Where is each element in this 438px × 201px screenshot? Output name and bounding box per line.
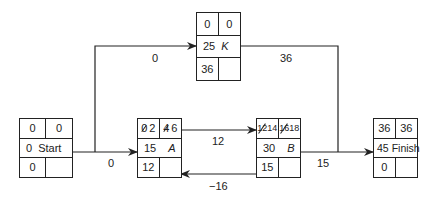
a-ef-new: 6 bbox=[171, 122, 177, 134]
a-slack: 12 bbox=[138, 158, 160, 177]
k-slack: 36 bbox=[197, 58, 219, 80]
edge-label-start-a: 0 bbox=[108, 157, 114, 169]
start-name: Start bbox=[38, 142, 61, 154]
finish-name: Finish bbox=[392, 142, 420, 154]
a-ef: 46 bbox=[160, 119, 182, 138]
b-ef-new: 18 bbox=[289, 123, 299, 133]
start-empty bbox=[46, 158, 72, 177]
node-k: 00 25K 36 bbox=[196, 12, 241, 81]
start-duration: 0 bbox=[26, 142, 32, 154]
b-empty bbox=[279, 158, 301, 177]
edge-label-b-finish: 15 bbox=[317, 157, 329, 169]
finish-slack: 0 bbox=[374, 158, 396, 177]
start-slack: 0 bbox=[20, 158, 46, 177]
node-start: 00 0Start 0 bbox=[19, 118, 73, 178]
finish-es: 36 bbox=[374, 119, 396, 138]
k-es: 0 bbox=[197, 13, 219, 35]
finish-duration: 45 bbox=[377, 142, 389, 154]
a-es-new: 2 bbox=[149, 122, 155, 134]
a-es-old: 0 bbox=[141, 122, 147, 134]
b-ef: 1618 bbox=[279, 119, 301, 138]
a-duration: 15 bbox=[144, 142, 156, 154]
finish-empty bbox=[396, 158, 418, 177]
b-name: B bbox=[287, 142, 294, 154]
edge-label-b-a: −16 bbox=[209, 180, 228, 192]
a-name: A bbox=[168, 142, 175, 154]
b-ef-old: 16 bbox=[279, 123, 289, 133]
start-ef: 0 bbox=[46, 119, 72, 138]
b-duration: 30 bbox=[263, 142, 275, 154]
b-es-new: 14 bbox=[267, 123, 277, 133]
b-es-old: 12 bbox=[257, 123, 267, 133]
edge-label-k-finish: 36 bbox=[280, 52, 292, 64]
k-empty bbox=[219, 58, 241, 80]
k-name: K bbox=[221, 40, 228, 52]
start-es: 0 bbox=[20, 119, 46, 138]
a-es: 02 bbox=[138, 119, 160, 138]
edge-label-a-b: 12 bbox=[212, 135, 224, 147]
k-ef: 0 bbox=[219, 13, 241, 35]
edge-label-start-k: 0 bbox=[152, 52, 158, 64]
k-duration: 25 bbox=[203, 40, 215, 52]
a-empty bbox=[160, 158, 182, 177]
node-b: 1214 1618 30B 15 bbox=[256, 118, 301, 178]
node-finish: 3636 45Finish 0 bbox=[373, 118, 418, 178]
a-ef-old: 4 bbox=[163, 122, 169, 134]
finish-ef: 36 bbox=[396, 119, 418, 138]
b-es: 1214 bbox=[257, 119, 279, 138]
node-a: 02 46 15A 12 bbox=[137, 118, 182, 178]
b-slack: 15 bbox=[257, 158, 279, 177]
